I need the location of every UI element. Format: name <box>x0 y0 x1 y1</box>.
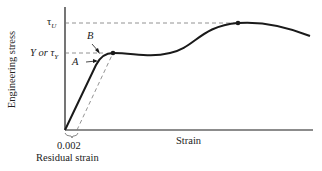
ultimate-point-dot <box>236 21 241 26</box>
offset-brace <box>65 133 78 138</box>
offset-value-label: 0.002 <box>57 141 81 152</box>
residual-strain-label: Residual strain <box>36 153 99 164</box>
point-a-label: A <box>72 57 78 68</box>
yield-point-dot <box>111 51 116 56</box>
x-axis-label: Strain <box>176 136 201 147</box>
ultimate-stress-label: τU <box>47 17 56 30</box>
point-b-label: B <box>87 31 93 42</box>
yield-stress-label: Y or τY <box>30 48 58 61</box>
y-axis-label: Engineering stress <box>6 15 17 125</box>
